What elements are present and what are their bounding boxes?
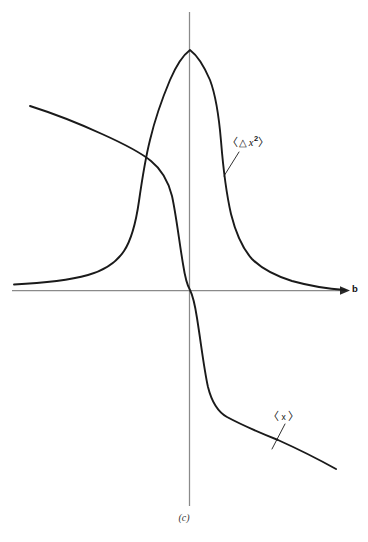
annotation-label-mean: 〈x〉: [268, 411, 300, 422]
annotation-label-variance: 〈△x2〉: [227, 137, 270, 148]
plot-canvas: [0, 0, 368, 542]
angle-bracket-close-icon: 〉: [258, 136, 269, 148]
figure-container: b 〈△x2〉 〈x〉 (c): [0, 0, 368, 542]
figure-caption: (c): [0, 512, 368, 523]
curve-variance: [14, 50, 345, 290]
leader-line-variance: [224, 152, 239, 176]
x-axis-label: b: [352, 284, 358, 294]
angle-bracket-open-icon: 〈: [268, 410, 280, 422]
leader-line-mean: [272, 424, 285, 449]
delta-triangle-icon: △: [238, 137, 247, 148]
axes-group: [12, 12, 350, 506]
angle-bracket-open-icon: 〈: [227, 136, 238, 148]
annotation-leaders: [224, 152, 285, 449]
angle-bracket-close-icon: 〉: [288, 410, 300, 422]
